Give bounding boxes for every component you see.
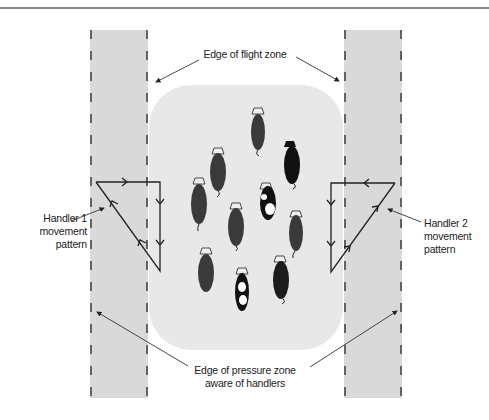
handler1-label-line1: Handler 1 <box>27 212 87 225</box>
handler2-label: Handler 2 movement pattern <box>424 217 484 256</box>
handler2-label-line2: movement <box>424 230 484 243</box>
handler2-label-line3: pattern <box>424 243 484 256</box>
pressure-zone-edge-label: Edge of pressure zone aware of handlers <box>185 364 305 390</box>
handler1-label-line2: movement <box>27 225 87 238</box>
flight-zone-arrow-left <box>156 60 199 82</box>
flight-zone-arrow-right <box>296 57 339 81</box>
pressure-label-line2: aware of handlers <box>185 377 305 390</box>
handler2-label-line1: Handler 2 <box>424 217 484 230</box>
flight-zone-edge-label: Edge of flight zone <box>195 48 295 61</box>
handler1-label-line3: pattern <box>27 238 87 251</box>
flight-zone-diagram <box>0 0 489 420</box>
pressure-label-line1: Edge of pressure zone <box>185 364 305 377</box>
flight-zone <box>149 85 343 350</box>
handler1-label: Handler 1 movement pattern <box>27 212 87 251</box>
